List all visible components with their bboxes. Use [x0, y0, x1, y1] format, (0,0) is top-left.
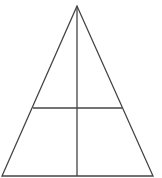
triangle-diagram [0, 0, 162, 178]
